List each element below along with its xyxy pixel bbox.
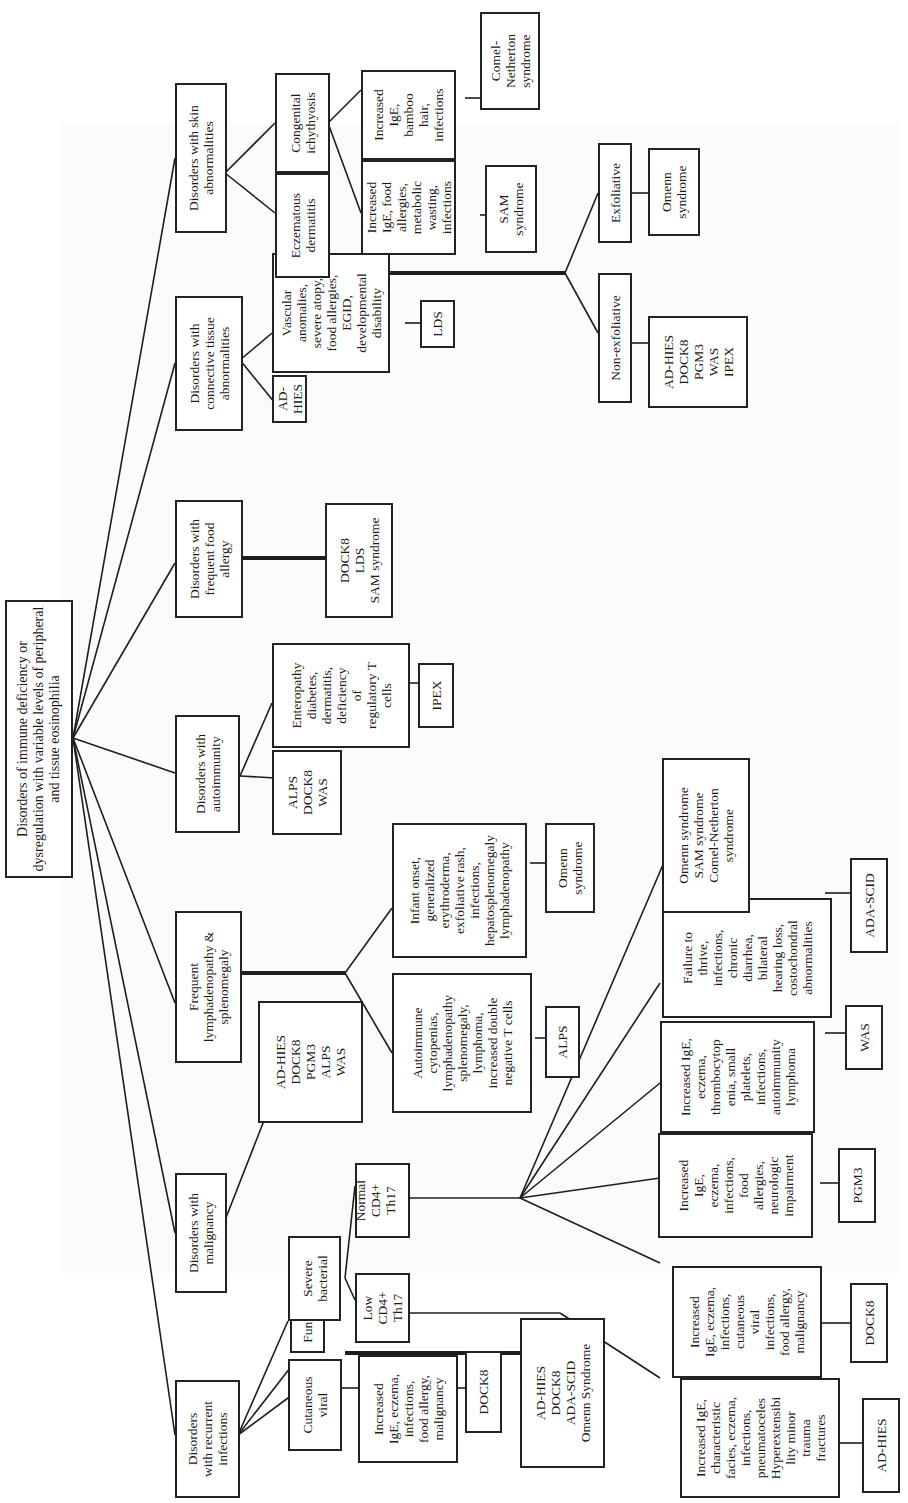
connective-adhies: AD-HIES bbox=[272, 375, 307, 423]
malignancy-diagnosis: AD-HIES DOCK8 PGM3 ALPS WAS bbox=[258, 1001, 363, 1123]
omenn-features: Infant onset, generalized erythroderma, … bbox=[392, 823, 527, 958]
category-autoimmunity: Disorders with autoimmunity bbox=[175, 715, 240, 833]
congenital-ichthyosis-node: Congenital ichythyosis bbox=[275, 73, 330, 173]
category-food-allergy: Disorders with frequent food allergy bbox=[175, 500, 243, 618]
edge bbox=[240, 776, 275, 778]
edge-root-connective bbox=[73, 363, 175, 738]
comel-diagnosis: Comel- Netherton syndrome bbox=[480, 12, 540, 110]
pgm3-features: Increased IgE, eczema, infections, food … bbox=[658, 1133, 813, 1238]
edge bbox=[565, 273, 598, 333]
ipex-features: Enteropathy diabetes, dermatitis, defici… bbox=[272, 643, 410, 748]
alps-diagnosis: ALPS bbox=[545, 1006, 580, 1078]
edge bbox=[328, 123, 361, 213]
cutaneous-viral-node: Cutaneous viral bbox=[288, 1359, 342, 1451]
lds-diagnosis: LDS bbox=[420, 300, 455, 348]
edge-root-autoimmunity bbox=[73, 738, 175, 773]
adhies-features: Increased IgE, characteristic facies, ec… bbox=[680, 1378, 840, 1498]
cutaneous-viral-features: Increased IgE, eczema, infections, food … bbox=[358, 1355, 458, 1463]
diagram-canvas: Disorders of immune deficiency or dysreg… bbox=[0, 0, 908, 1503]
omenn-diagnosis: Omenn syndrome bbox=[545, 823, 595, 913]
edge bbox=[345, 1278, 355, 1300]
normal-th17-node: Normal CD4+ Th17 .. bbox=[355, 1163, 410, 1238]
edge-root-malignancy bbox=[73, 738, 175, 1233]
cutaneous-viral-diagnosis: DOCK8 bbox=[465, 1351, 502, 1433]
root-node: Disorders of immune deficiency or dysreg… bbox=[5, 600, 73, 878]
comel-features: Increased IgE, bamboo hair, infections bbox=[361, 70, 456, 160]
edge bbox=[345, 908, 392, 973]
omenn-sam-comel-diagnosis: Omenn syndrome SAM syndrome Comel-Nether… bbox=[662, 758, 750, 913]
exfoliative-node: Exfoliative bbox=[598, 143, 632, 243]
severe-bacterial-node: Severe bacterial bbox=[288, 1236, 341, 1321]
low-th17-node: Low CD4+ Th17 bbox=[355, 1273, 410, 1343]
category-lymphadenopathy: Frequent lymphadenopathy & splenomegaly bbox=[175, 911, 242, 1063]
edge bbox=[328, 90, 361, 123]
edge bbox=[240, 360, 275, 403]
category-malignancy: Disorders with malignancy bbox=[175, 1173, 227, 1293]
non-exfoliative-node: Non-exfoliative bbox=[598, 273, 632, 403]
category-recurrent-infections: Disorders with recurrent infections bbox=[175, 1380, 240, 1498]
edge bbox=[238, 1321, 288, 1435]
dock8-features: Increased IgE, eczema, infections, cutan… bbox=[672, 1266, 822, 1378]
edge bbox=[225, 123, 275, 173]
edge-root-infections bbox=[73, 738, 175, 1435]
edge bbox=[565, 193, 598, 273]
ipex-diagnosis: IPEX bbox=[418, 663, 454, 728]
edge bbox=[520, 1198, 660, 1263]
edge bbox=[240, 333, 272, 360]
eczematous-dermatitis-node: Eczematous dermatitis bbox=[275, 173, 330, 278]
adascid-diagnosis: ADA-SCID bbox=[850, 858, 888, 953]
non-exfoliative-diagnosis: AD-HIES DOCK8 PGM3 WAS IPEX bbox=[648, 316, 748, 408]
edge bbox=[520, 983, 660, 1198]
category-connective-tissue: Disorders with connective tissue abnorma… bbox=[175, 296, 243, 431]
pgm3-diagnosis: PGM3 bbox=[838, 1148, 876, 1223]
fungal-diagnosis: AD-HIES DOCK8 ADA-SCID Omenn Syndrome bbox=[520, 1318, 605, 1468]
was-diagnosis: WAS bbox=[845, 1005, 883, 1070]
autoimmunity-diagnosis: ALPS DOCK8 WAS bbox=[272, 750, 342, 835]
food-allergy-diagnosis: DOCK8 LDS SAM syndrome bbox=[325, 503, 393, 618]
sam-features: Increased IgE, food allergies, metabolic… bbox=[361, 160, 456, 255]
sam-diagnosis: SAM syndrome bbox=[485, 165, 537, 253]
edge-root-lymphadenopathy bbox=[73, 738, 175, 1003]
was-features: Increased IgE, eczema, thrombocytop enia… bbox=[660, 1021, 815, 1133]
edge bbox=[240, 703, 272, 776]
edge bbox=[225, 173, 275, 213]
adascid-features: Failure to thrive, infections, chronic d… bbox=[662, 898, 832, 1018]
exfoliative-diagnosis: Omenn syndrome bbox=[648, 148, 700, 236]
dock8-diagnosis: DOCK8 bbox=[850, 1283, 888, 1363]
alps-features: Autoimmune cytopenias, lymphadenopathy s… bbox=[392, 973, 532, 1113]
adhies-diagnosis: AD-HIES bbox=[862, 1398, 900, 1493]
category-skin: Disorders with skin abnormalities bbox=[175, 83, 227, 233]
